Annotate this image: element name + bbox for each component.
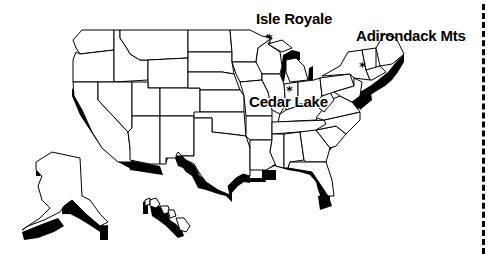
alaska-inset [22,152,108,230]
dashed-divider [482,4,485,254]
site-label-isle-royale: Isle Royale [256,11,332,26]
site-marker-adirondack-mts: * [359,60,366,73]
site-marker-cedar-lake: * [286,84,293,97]
site-label-adirondack-mts: Adirondack Mts [356,28,466,43]
contiguous-us [73,30,404,196]
site-marker-isle-royale: * [266,32,273,45]
